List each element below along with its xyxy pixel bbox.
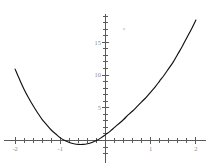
y-tick-label: 5: [98, 104, 101, 111]
y-tick-label: 10: [95, 71, 102, 78]
x-tick-label: 1: [149, 145, 152, 152]
render-artifact-speck: [123, 28, 125, 30]
plot-canvas: -2-112 51015: [0, 0, 210, 166]
x-tick-label: 2: [194, 145, 197, 152]
plot-figure: -2-112 51015: [0, 0, 210, 166]
y-tick-label: 15: [95, 39, 102, 46]
x-axis-tick-labels: -2-112: [12, 145, 197, 152]
y-axis-tick-labels: 51015: [95, 39, 102, 112]
x-tick-label: -1: [58, 145, 63, 152]
x-tick-label: -2: [12, 145, 17, 152]
